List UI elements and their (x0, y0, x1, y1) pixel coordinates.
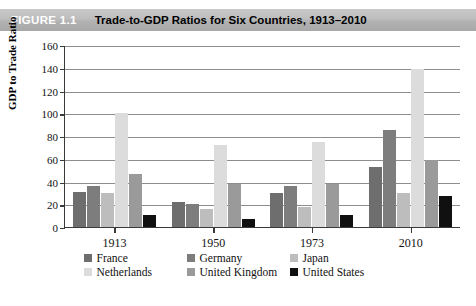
x-axis-tick-label: 1950 (164, 236, 263, 251)
legend-label: United Kingdom (200, 266, 278, 278)
bar-france (369, 167, 382, 227)
legend-item-netherlands: Netherlands (84, 266, 187, 278)
legend-item-united-kingdom: United Kingdom (187, 266, 290, 278)
bar-groups: 1913195019732010 (65, 46, 460, 227)
y-axis-tick-label: 140 (42, 63, 59, 75)
bar-germany (87, 186, 100, 227)
figure-container: FIGURE 1.1 Trade-to-GDP Ratios for Six C… (0, 0, 476, 306)
legend-swatch (187, 254, 195, 262)
y-axis-tick-label: 100 (42, 108, 59, 120)
bar-japan (397, 193, 410, 227)
bar-group: 1913 (65, 46, 164, 227)
bar-netherlands (214, 145, 227, 227)
legend-label: France (97, 252, 128, 264)
bar-group: 2010 (361, 46, 460, 227)
y-axis-tick-label: 160 (42, 40, 59, 52)
y-axis-tick-label: 60 (47, 154, 58, 166)
x-axis-tick-label: 2010 (361, 236, 460, 251)
bar-japan (298, 207, 311, 227)
bar-united-kingdom (228, 184, 241, 227)
bar-united-states (242, 219, 255, 227)
legend-swatch (84, 268, 92, 276)
bar-united-kingdom (326, 184, 339, 227)
bar-japan (200, 209, 213, 227)
legend-item-germany: Germany (187, 252, 290, 264)
bar-netherlands (411, 69, 424, 227)
y-axis-tick-label: 120 (42, 86, 59, 98)
chart-area: GDP to Trade Ratio 160140120100806040200… (0, 38, 476, 254)
bar-united-states (340, 215, 353, 228)
figure-title: Trade-to-GDP Ratios for Six Countries, 1… (95, 14, 367, 26)
y-axis-tick-label: 0 (53, 222, 59, 234)
bar-france (73, 192, 86, 227)
legend-item-japan: Japan (290, 252, 393, 264)
legend-label: Japan (303, 252, 329, 264)
legend-label: United States (303, 266, 365, 278)
figure-number-badge: FIGURE 1.1 (11, 14, 77, 26)
y-axis-tick-label: 20 (47, 199, 58, 211)
bar-united-states (439, 196, 452, 227)
legend-label: Germany (200, 252, 243, 264)
bar-group: 1973 (263, 46, 362, 227)
legend-item-france: France (84, 252, 187, 264)
bar-germany (284, 186, 297, 227)
x-axis-tick-label: 1913 (65, 236, 164, 251)
legend-swatch (187, 268, 195, 276)
x-axis-tick-label: 1973 (263, 236, 362, 251)
legend-swatch (84, 254, 92, 262)
figure-header-band: FIGURE 1.1 Trade-to-GDP Ratios for Six C… (0, 9, 476, 31)
bar-group: 1950 (164, 46, 263, 227)
bar-netherlands (115, 113, 128, 227)
bar-germany (383, 130, 396, 227)
legend-item-united-states: United States (290, 266, 393, 278)
bar-germany (186, 204, 199, 227)
legend-row-1: FranceGermanyJapan (0, 252, 476, 264)
y-axis-tick-label: 80 (47, 131, 58, 143)
x-axis-tick-mark (312, 227, 313, 233)
bar-united-kingdom (129, 174, 142, 227)
chart-legend: FranceGermanyJapan NetherlandsUnited Kin… (0, 252, 476, 280)
plot-region: 160140120100806040200 1913195019732010 (64, 46, 460, 228)
x-axis-tick-mark (411, 227, 412, 233)
y-axis-label: GDP to Trade Ratio (6, 17, 18, 110)
bar-united-kingdom (425, 160, 438, 227)
y-axis-tick-label: 40 (47, 177, 58, 189)
y-axis-tick-mark (60, 228, 65, 229)
bar-netherlands (312, 142, 325, 227)
x-axis-tick-mark (213, 227, 214, 233)
bar-france (270, 193, 283, 227)
legend-swatch (290, 254, 298, 262)
legend-label: Netherlands (97, 266, 153, 278)
bar-united-states (143, 215, 156, 228)
bar-japan (101, 193, 114, 227)
x-axis-tick-mark (114, 227, 115, 233)
legend-swatch (290, 268, 298, 276)
legend-row-2: NetherlandsUnited KingdomUnited States (0, 266, 476, 278)
bar-france (172, 202, 185, 227)
